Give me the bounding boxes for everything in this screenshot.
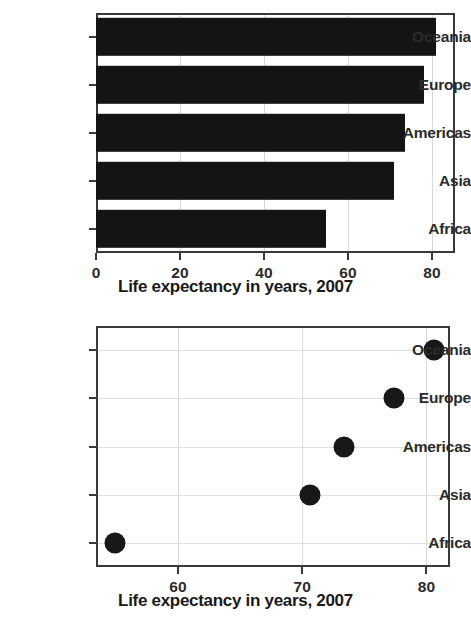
bar-ytick-mark-asia (89, 180, 96, 182)
bar-americas[interactable] (96, 114, 405, 152)
bar-ytick-label-americas: Americas (387, 124, 471, 142)
dot-ytick-label-americas: Americas (387, 438, 471, 456)
bar-ytick-mark-oceania (89, 36, 96, 38)
bar-ytick-label-europe: Europe (387, 76, 471, 94)
dot-xtick-mark-80 (425, 567, 427, 574)
bar-xtick-mark-20 (179, 253, 181, 260)
bar-xtick-mark-80 (431, 253, 433, 260)
dot-ytick-mark-asia (89, 494, 96, 496)
dot-xtick-mark-70 (301, 567, 303, 574)
bar-africa[interactable] (96, 210, 326, 248)
dot-ytick-label-africa: Africa (387, 534, 471, 552)
bar-ytick-label-oceania: Oceania (387, 28, 471, 46)
bar-ytick-mark-europe (89, 84, 96, 86)
bar-ytick-mark-americas (89, 132, 96, 134)
bar-chart-panel: AfricaAsiaAmericasEuropeOceania 02040608… (0, 0, 471, 321)
dot-ytick-mark-americas (89, 446, 96, 448)
dot-africa[interactable] (104, 532, 125, 553)
bar-xtick-mark-40 (263, 253, 265, 260)
dot-ytick-label-oceania: Oceania (387, 341, 471, 359)
bar-ytick-label-africa: Africa (387, 220, 471, 238)
dot-ytick-label-asia: Asia (387, 486, 471, 504)
bar-xtick-mark-0 (95, 253, 97, 260)
bar-ytick-mark-africa (89, 228, 96, 230)
dot-asia[interactable] (299, 484, 320, 505)
bar-x-axis-title: Life expectancy in years, 2007 (0, 277, 471, 297)
dot-ytick-mark-oceania (89, 349, 96, 351)
dot-ytick-label-europe: Europe (387, 389, 471, 407)
dot-xtick-mark-60 (177, 567, 179, 574)
bar-asia[interactable] (96, 162, 394, 200)
dot-americas[interactable] (334, 436, 355, 457)
dot-ytick-mark-africa (89, 542, 96, 544)
bar-europe[interactable] (96, 66, 424, 104)
dot-chart-panel: AfricaAsiaAmericasEuropeOceania 607080 L… (0, 321, 471, 642)
bar-xtick-mark-60 (347, 253, 349, 260)
dot-ytick-mark-europe (89, 397, 96, 399)
dot-x-axis-title: Life expectancy in years, 2007 (0, 591, 471, 611)
bar-ytick-label-asia: Asia (387, 172, 471, 190)
bar-oceania[interactable] (96, 18, 436, 56)
